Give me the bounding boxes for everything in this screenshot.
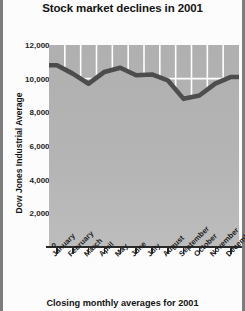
x-axis-caption: Closing monthly averages for 2001 bbox=[0, 298, 245, 308]
y-tick-value: 12,000 bbox=[25, 41, 49, 50]
chart-title: Stock market declines in 2001 bbox=[0, 2, 245, 14]
stock-market-chart-figure: Stock market declines in 2001 Dow Jones … bbox=[0, 0, 245, 311]
y-axis-zero-label: 0 bbox=[14, 241, 56, 250]
data-series-dow-jones bbox=[49, 45, 239, 247]
y-tick-value: 8,000 bbox=[30, 108, 50, 117]
series-area-fill bbox=[49, 65, 239, 247]
x-axis-month-labels: JanuaryFebruaryMarchAprilMayJuneJulyAugu… bbox=[0, 254, 245, 300]
y-tick-value: 4,000 bbox=[30, 175, 50, 184]
y-tick-value: 2,000 bbox=[30, 209, 50, 218]
y-tick-value: 10,000 bbox=[25, 74, 49, 83]
plot-area bbox=[49, 45, 239, 247]
y-tick-value: 6,000 bbox=[30, 142, 50, 151]
